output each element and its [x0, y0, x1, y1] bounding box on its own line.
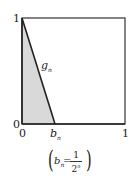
y-label-1: 1: [13, 13, 20, 24]
x-label-1: 1: [122, 128, 129, 139]
numerator: 1: [70, 150, 82, 160]
formula-bn: ( bn = 1 2n ): [46, 148, 96, 176]
right-paren: ): [86, 148, 92, 172]
x-label-0: 0: [19, 128, 26, 139]
formula-fraction: 1 2n: [70, 150, 82, 174]
left-paren: (: [48, 148, 54, 172]
x-label-bn: bn: [50, 128, 61, 141]
curve-label-gn: gn: [41, 60, 52, 73]
denominator: 2n: [70, 163, 82, 174]
